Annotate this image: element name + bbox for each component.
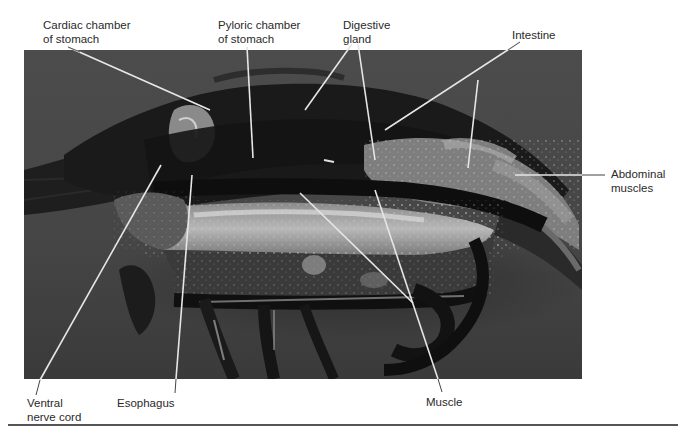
crayfish-dissection-photo (24, 50, 582, 379)
label-ventral-line2: nerve cord (27, 411, 81, 425)
label-cardiac-line2: of stomach (43, 33, 131, 47)
label-cardiac-line1: Cardiac chamber (43, 19, 131, 33)
label-abdominal-line2: muscles (611, 182, 665, 196)
label-esophagus-line1: Esophagus (117, 397, 175, 411)
label-abdominal-muscles: Abdominal muscles (611, 168, 665, 195)
label-digestive-line2: gland (343, 33, 390, 47)
label-pyloric-line2: of stomach (218, 33, 300, 47)
label-intestine: Intestine (512, 29, 555, 43)
label-digestive-gland: Digestive gland (343, 19, 390, 46)
label-pyloric-line1: Pyloric chamber (218, 19, 300, 33)
label-cardiac-chamber: Cardiac chamber of stomach (43, 19, 131, 46)
bottom-divider (8, 424, 678, 426)
label-intestine-line1: Intestine (512, 29, 555, 43)
label-esophagus: Esophagus (117, 397, 175, 411)
label-pyloric-chamber: Pyloric chamber of stomach (218, 19, 300, 46)
label-muscle: Muscle (426, 396, 462, 410)
label-ventral-line1: Ventral (27, 397, 81, 411)
label-abdominal-line1: Abdominal (611, 168, 665, 182)
label-digestive-line1: Digestive (343, 19, 390, 33)
label-ventral-nerve-cord: Ventral nerve cord (27, 397, 81, 424)
crayfish-anatomy-figure: Cardiac chamber of stomach Pyloric chamb… (0, 0, 695, 438)
label-muscle-line1: Muscle (426, 396, 462, 410)
